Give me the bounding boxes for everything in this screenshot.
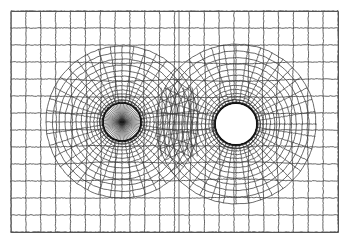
finite-element-mesh-canvas: [0, 0, 350, 245]
mesh-figure: Finite element mesh around two circular …: [0, 0, 350, 245]
